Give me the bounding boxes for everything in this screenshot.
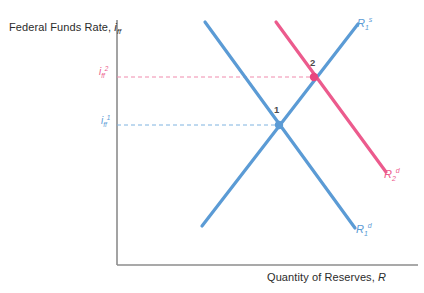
curve-label-supply-sup: s	[369, 16, 373, 23]
curve-label-supply-sub: 1	[365, 24, 369, 31]
curve-label-demand1-sup: d	[368, 222, 372, 229]
y-tick-iff2-sub: ff	[101, 72, 105, 79]
plot-svg	[0, 0, 424, 293]
demand-curve-r2d	[276, 22, 386, 172]
equilibrium-point-2	[310, 73, 318, 81]
x-axis-title: Quantity of Reserves, R	[267, 272, 386, 283]
curve-label-demand2-base: R	[384, 168, 392, 180]
curve-label-demand-r1d: R1d	[356, 222, 372, 237]
equilibrium-label-2: 2	[310, 58, 315, 68]
curve-label-demand1-base: R	[356, 223, 364, 235]
x-axis-title-variable: R	[378, 271, 386, 283]
y-tick-iff1-sup: 1	[107, 114, 111, 121]
y-tick-iff1-sub: ff	[103, 121, 107, 128]
curve-label-demand-r2d: R2d	[384, 167, 400, 182]
y-tick-label-iff2: iff2	[99, 66, 108, 80]
y-axis-title-text: Federal Funds Rate,	[9, 21, 114, 33]
equilibrium-label-1: 1	[274, 105, 279, 115]
curve-label-demand1-sub: 1	[364, 230, 368, 237]
curve-label-demand2-sub: 2	[392, 175, 396, 182]
y-axis-title: Federal Funds Rate, iff	[9, 22, 121, 36]
equilibrium-point-1	[275, 121, 283, 129]
y-tick-iff2-sup: 2	[105, 65, 109, 72]
x-axis-title-text: Quantity of Reserves,	[267, 271, 378, 283]
federal-funds-market-figure: Federal Funds Rate, iff Quantity of Rese…	[0, 0, 424, 293]
curve-label-supply-r1s: R1s	[357, 16, 372, 31]
y-axis-title-variable: iff	[114, 21, 121, 33]
y-tick-label-iff1: iff1	[101, 115, 110, 129]
curve-label-supply-base: R	[357, 17, 365, 29]
y-axis-title-variable-sub: ff	[117, 27, 121, 36]
curve-label-demand2-sup: d	[396, 167, 400, 174]
